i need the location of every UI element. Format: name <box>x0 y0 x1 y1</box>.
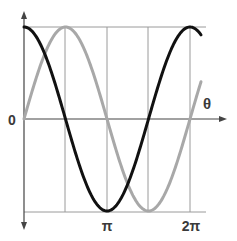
origin-label: 0 <box>8 112 16 128</box>
x-tick-label-two-pi: 2π <box>182 218 201 234</box>
sin-cos-chart: 0 θ π 2π <box>0 0 237 241</box>
labels: 0 θ π 2π <box>8 95 211 234</box>
x-axis-arrow-icon <box>219 116 227 122</box>
axes <box>21 11 227 230</box>
y-axis-up-arrow-icon <box>21 11 27 19</box>
x-tick-label-pi: π <box>102 218 113 234</box>
x-axis-label: θ <box>203 95 211 112</box>
y-axis-down-arrow-icon <box>21 222 27 230</box>
